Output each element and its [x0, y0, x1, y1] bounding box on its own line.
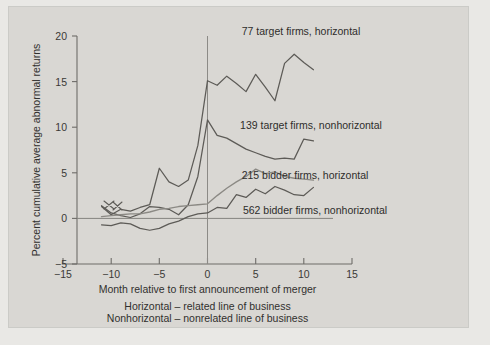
- y-axis-title: Percent cumulative average abnormal retu…: [30, 44, 42, 256]
- y-tick-label-15: 15: [55, 76, 67, 88]
- x-tick-labels: −15 −10 −5 0 5 10 15: [54, 268, 358, 280]
- x-tick-label-15: 15: [346, 268, 358, 280]
- series-label-562-bidder-nonhorizontal: 562 bidder firms, nonhorizontal: [243, 204, 387, 216]
- x-tick-label-minus15: −15: [54, 268, 72, 280]
- axes-group: [63, 36, 352, 264]
- caption-horizontal: Horizontal – related line of business: [124, 300, 290, 312]
- caption-nonhorizontal: Nonhorizontal – nonrelated line of busin…: [107, 312, 308, 324]
- crossing-marks-group: [104, 201, 122, 210]
- x-tick-label-5: 5: [253, 268, 259, 280]
- x-tick-label-10: 10: [298, 268, 310, 280]
- x-tick-label-minus5: −5: [153, 268, 165, 280]
- x-tick-label-0: 0: [205, 268, 211, 280]
- figure-container: 20 15 10 5 0 −5 −15 −10 −5 0 5 10 15 Mon…: [0, 0, 490, 345]
- series-label-139-target-nonhorizontal: 139 target firms, nonhorizontal: [240, 119, 382, 131]
- crossing-mark-right: [113, 202, 122, 210]
- series-label-77-target-horizontal: 77 target firms, horizontal: [242, 25, 360, 37]
- chart-canvas: 20 15 10 5 0 −5 −15 −10 −5 0 5 10 15 Mon…: [0, 0, 490, 345]
- x-tick-label-minus10: −10: [102, 268, 120, 280]
- y-tick-label-10: 10: [55, 121, 67, 133]
- y-tick-label-20: 20: [55, 30, 67, 42]
- y-tick-labels: 20 15 10 5 0 −5: [55, 30, 67, 270]
- y-tick-label-0: 0: [61, 212, 67, 224]
- series-label-215-bidder-horizontal: 215 bidder firms, horizontal: [242, 169, 369, 181]
- chart-svg: 20 15 10 5 0 −5 −15 −10 −5 0 5 10 15 Mon…: [0, 0, 490, 345]
- caption-group: Horizontal – related line of business No…: [107, 300, 308, 324]
- y-tick-label-5: 5: [61, 167, 67, 179]
- x-axis-title: Month relative to first announcement of …: [99, 283, 317, 295]
